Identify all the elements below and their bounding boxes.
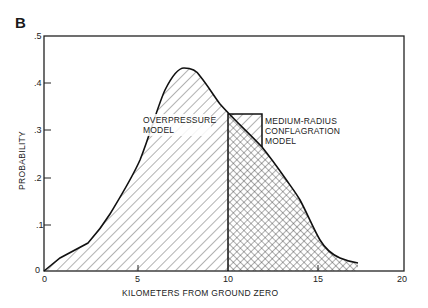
y-tick-label: .5: [34, 31, 42, 41]
x-tick-label: 0: [42, 274, 47, 284]
x-tick-label: 15: [313, 274, 323, 284]
overpressure-area: [44, 36, 228, 271]
y-tick-label: .4: [34, 78, 42, 88]
overpressure-label: OVERPRESSURE MODEL: [141, 114, 216, 136]
conflagration-label: MEDIUM-RADIUS CONFLAGRATION MODEL: [265, 116, 340, 146]
svg-text:OVERPRESSURE: OVERPRESSURE: [143, 115, 216, 125]
y-axis: [44, 83, 51, 225]
y-tick-label: .3: [34, 125, 42, 135]
y-tick-label: .2: [34, 173, 42, 183]
svg-text:MEDIUM-RADIUS: MEDIUM-RADIUS: [265, 116, 337, 126]
x-axis-title: KILOMETERS FROM GROUND ZERO: [122, 288, 278, 298]
y-tick-label: .1: [36, 220, 44, 230]
svg-text:MODEL: MODEL: [143, 125, 174, 135]
y-tick-label: 0: [35, 265, 40, 275]
x-tick-label: 10: [223, 274, 233, 284]
conflagration-area: [228, 36, 404, 271]
svg-text:MODEL: MODEL: [265, 136, 296, 146]
x-tick-label: 20: [397, 274, 407, 284]
y-axis-title: PROBABILITY: [17, 131, 27, 190]
probability-chart: .5 .4 .3 .2 .1 0 0 5 10 15 20 KILOMETERS…: [0, 0, 428, 308]
x-tick-label: 5: [135, 274, 140, 284]
svg-text:CONFLAGRATION: CONFLAGRATION: [265, 126, 340, 136]
